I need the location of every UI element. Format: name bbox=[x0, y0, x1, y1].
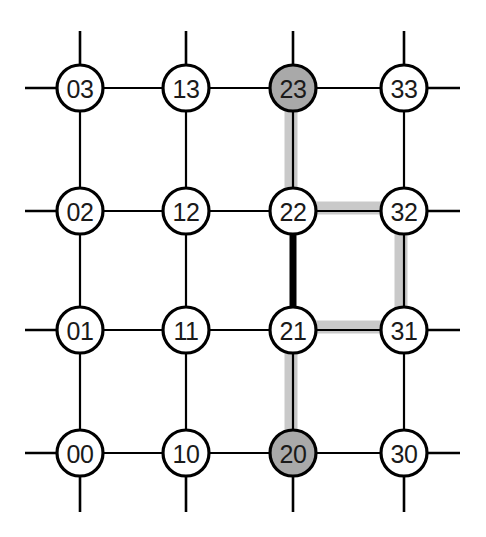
node-10[interactable]: 10 bbox=[163, 430, 209, 476]
node-label-21: 21 bbox=[280, 317, 307, 345]
node-label-22: 22 bbox=[280, 198, 307, 226]
node-label-02: 02 bbox=[67, 198, 94, 226]
node-label-33: 33 bbox=[391, 75, 418, 103]
node-01[interactable]: 01 bbox=[57, 307, 103, 353]
node-label-00: 00 bbox=[67, 440, 94, 468]
node-label-01: 01 bbox=[67, 317, 94, 345]
node-20[interactable]: 20 bbox=[270, 430, 316, 476]
node-30[interactable]: 30 bbox=[381, 430, 427, 476]
node-13[interactable]: 13 bbox=[163, 65, 209, 111]
node-23[interactable]: 23 bbox=[270, 65, 316, 111]
node-label-32: 32 bbox=[391, 198, 418, 226]
diagram-canvas: 03132333021222320111213100102030 bbox=[0, 0, 486, 537]
node-22[interactable]: 22 bbox=[270, 188, 316, 234]
node-label-10: 10 bbox=[173, 440, 200, 468]
node-00[interactable]: 00 bbox=[57, 430, 103, 476]
network-diagram-figure: 03132333021222320111213100102030 bbox=[0, 0, 486, 537]
node-21[interactable]: 21 bbox=[270, 307, 316, 353]
node-33[interactable]: 33 bbox=[381, 65, 427, 111]
node-03[interactable]: 03 bbox=[57, 65, 103, 111]
node-label-12: 12 bbox=[173, 198, 200, 226]
node-31[interactable]: 31 bbox=[381, 307, 427, 353]
node-label-20: 20 bbox=[280, 440, 307, 468]
node-32[interactable]: 32 bbox=[381, 188, 427, 234]
node-label-13: 13 bbox=[173, 75, 200, 103]
node-label-11: 11 bbox=[174, 317, 199, 345]
node-11[interactable]: 11 bbox=[163, 307, 209, 353]
node-label-30: 30 bbox=[391, 440, 418, 468]
node-12[interactable]: 12 bbox=[163, 188, 209, 234]
node-label-03: 03 bbox=[67, 75, 94, 103]
node-label-31: 31 bbox=[391, 317, 418, 345]
node-label-23: 23 bbox=[280, 75, 307, 103]
node-02[interactable]: 02 bbox=[57, 188, 103, 234]
